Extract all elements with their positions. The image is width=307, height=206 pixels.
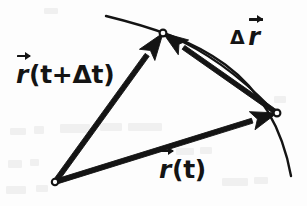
vector-shaft-r-t (54, 118, 253, 184)
label-position-vector-t: r(t) (159, 157, 206, 182)
vector-symbol-r: r (16, 62, 29, 87)
node-origin (52, 179, 58, 185)
vector-argument: (t) (172, 155, 206, 184)
vector-shaft-delta-r (182, 45, 278, 114)
vector-displacement-figure: r(t+Δt) r(t) Δr (0, 0, 307, 206)
vector-symbol-r: r (248, 25, 261, 49)
vector-symbol-r: r (159, 157, 172, 182)
vector-argument: (t+Δt) (29, 60, 114, 89)
label-displacement-vector-delta-r: Δr (230, 25, 262, 49)
label-position-vector-t-plus-delta-t: r(t+Δt) (16, 62, 114, 87)
trajectory-curve (106, 16, 291, 176)
node-point-at-t (274, 110, 281, 117)
node-point-at-t-plus-delta-t (160, 30, 167, 37)
delta-symbol: Δ (230, 26, 248, 48)
